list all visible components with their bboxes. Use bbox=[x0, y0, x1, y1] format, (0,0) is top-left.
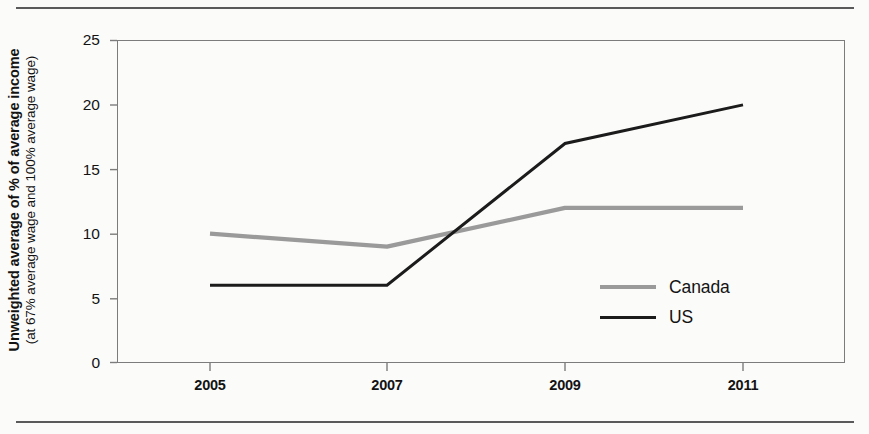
x-tick-label-2011: 2011 bbox=[703, 377, 783, 393]
us-line-swatch-icon bbox=[600, 316, 656, 319]
figure-bottom-rule bbox=[16, 421, 854, 423]
y-tick-label-15: 15 bbox=[60, 161, 100, 179]
x-tick-label-2007: 2007 bbox=[347, 377, 427, 393]
y-tick-marks bbox=[110, 41, 117, 363]
legend-item-canada: Canada bbox=[600, 272, 730, 302]
canada-line-swatch-icon bbox=[600, 285, 656, 289]
x-tick-marks bbox=[210, 363, 743, 371]
legend-label-canada: Canada bbox=[669, 277, 730, 298]
figure-top-rule bbox=[16, 7, 854, 9]
y-axis-title-sub: (at 67% average wage and 100% average wa… bbox=[24, 30, 40, 370]
legend-item-us: US bbox=[600, 302, 730, 332]
y-axis-title-main: Unweighted average of % of average incom… bbox=[6, 30, 23, 370]
x-tick-label-2005: 2005 bbox=[170, 377, 250, 393]
chart-figure: Unweighted average of % of average incom… bbox=[0, 0, 869, 434]
chart-legend: Canada US bbox=[600, 272, 730, 332]
x-tick-label-2009: 2009 bbox=[525, 377, 605, 393]
y-axis-title: Unweighted average of % of average incom… bbox=[0, 30, 46, 370]
y-tick-label-20: 20 bbox=[60, 96, 100, 114]
legend-label-us: US bbox=[669, 307, 693, 328]
plot-area bbox=[117, 40, 845, 363]
y-tick-label-5: 5 bbox=[60, 290, 100, 308]
y-tick-label-0: 0 bbox=[60, 354, 100, 372]
y-tick-label-25: 25 bbox=[60, 31, 100, 49]
y-tick-label-10: 10 bbox=[60, 225, 100, 243]
